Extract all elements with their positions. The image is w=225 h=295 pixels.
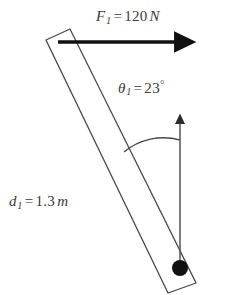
angle-subscript: 1 [126,86,131,97]
angle-symbol: θ [118,80,126,96]
pendulum-bob [172,260,188,276]
angle-label: θ1=23° [118,79,165,98]
distance-subscript: 1 [17,200,22,211]
physics-diagram-figure: F1=120N θ1=23° d1=1.3m [0,0,225,295]
force-equals: = [113,8,122,24]
force-label: F1=120N [96,9,160,26]
force-symbol: F [96,8,105,24]
diagram-canvas [0,0,225,295]
angle-unit: ° [160,78,165,90]
angle-equals: = [134,80,143,96]
distance-value: 1.3 [35,193,55,209]
distance-equals: = [25,193,34,209]
force-value: 120 [124,8,147,24]
angle-arc [124,138,180,152]
force-subscript: 1 [106,15,111,26]
distance-label: d1=1.3m [9,194,68,211]
force-unit: N [150,8,160,24]
distance-unit: m [57,193,68,209]
distance-symbol: d [9,193,17,209]
angle-value: 23 [144,80,160,96]
rod-outline [46,29,196,293]
